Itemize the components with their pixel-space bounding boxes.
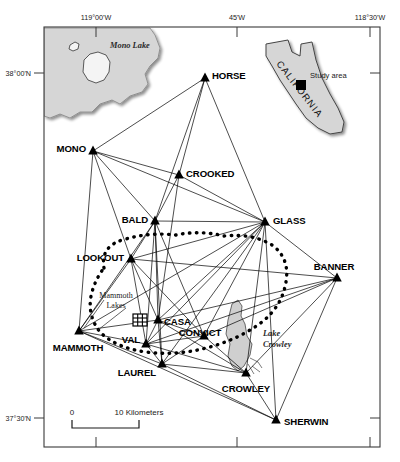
station-label-banner: BANNER <box>314 261 355 272</box>
study-area-label: Study area <box>310 71 348 80</box>
station-convict[interactable]: CONVICT <box>179 327 222 339</box>
scale-bar-zero-label: 0 <box>70 408 75 417</box>
graticule-left-label-0: 38°00'N <box>6 69 31 78</box>
station-label-mono: MONO <box>57 143 87 154</box>
station-label-convict: CONVICT <box>179 327 222 338</box>
scale-bar-max-label: 10 Kilometers <box>115 408 164 417</box>
station-label-casa: CASA <box>164 316 191 327</box>
lake-crowley-label-line2: Crowley <box>263 340 292 349</box>
map-body: Mono Lake Lake Crowley Mammoth Lakes <box>44 27 380 447</box>
station-label-lookout: LOOKOUT <box>77 252 125 263</box>
station-label-crooked: CROOKED <box>186 168 235 179</box>
study-area-marker <box>296 80 306 90</box>
map-figure: Mono Lake Lake Crowley Mammoth Lakes <box>0 0 400 462</box>
graticule-top-label-0: 119°00'W <box>81 13 112 22</box>
map-canvas: Mono Lake Lake Crowley Mammoth Lakes <box>0 0 400 462</box>
mammoth-lakes-town-symbol <box>133 314 147 326</box>
station-label-mammoth: MAMMOTH <box>53 342 104 353</box>
station-label-crowley: CROWLEY <box>222 383 271 394</box>
station-label-val: VAL <box>122 334 140 345</box>
station-label-glass: GLASS <box>273 215 306 226</box>
graticule-top-labels: 119°00'W45'W118°30'W <box>81 13 386 22</box>
graticule-top-label-1: 45'W <box>229 13 245 22</box>
mammoth-lakes-label-line2: Lakes <box>106 301 125 310</box>
mono-lake-label: Mono Lake <box>109 41 150 50</box>
station-label-bald: BALD <box>122 214 148 225</box>
station-label-horse: HORSE <box>212 70 246 81</box>
station-label-laurel: LAUREL <box>118 367 157 378</box>
graticule-left-labels: 38°00'N37°30'N <box>6 69 31 423</box>
mammoth-lakes-label-line1: Mammoth <box>99 291 132 300</box>
graticule-top-label-2: 118°30'W <box>355 13 386 22</box>
station-label-sherwin: SHERWIN <box>284 416 329 427</box>
graticule-left-label-1: 37°30'N <box>6 414 31 423</box>
